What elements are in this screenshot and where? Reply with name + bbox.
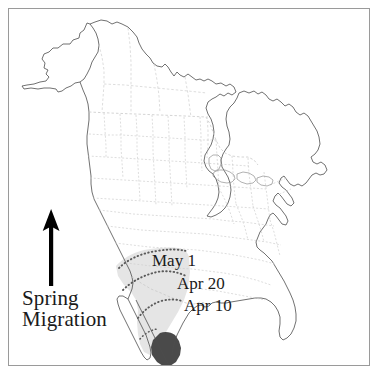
legend-title-line-1: Spring (22, 286, 79, 310)
canada-province-boundaries (99, 28, 208, 158)
great-lakes (209, 155, 273, 186)
legend-title: Spring Migration (22, 288, 107, 331)
isochrone-label-may1: May 1 (152, 252, 196, 269)
legend-title-line-2: Migration (22, 309, 107, 330)
isochrone-label-apr20: Apr 20 (177, 275, 225, 292)
spring-migration-map-figure: Spring Migration May 1 Apr 20 Apr 10 (0, 0, 380, 382)
canada-arctic-coastline (90, 20, 236, 216)
eastern-canada-coastline (239, 91, 327, 250)
north-arrow-icon (43, 209, 60, 286)
alaska-coastline (22, 23, 99, 92)
hudson-bay-coastline (207, 93, 239, 217)
isochrone-label-apr10: Apr 10 (184, 297, 232, 314)
